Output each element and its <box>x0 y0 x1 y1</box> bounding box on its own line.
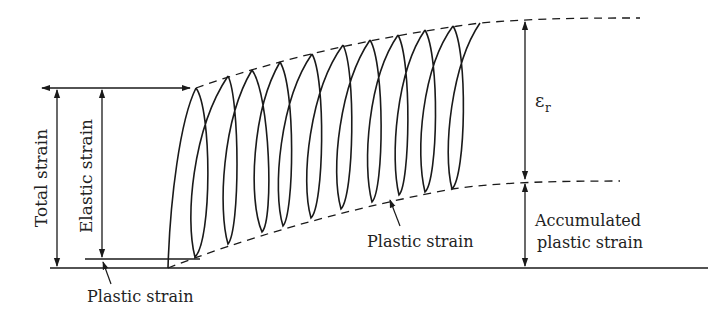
accumulated-label-line1: Accumulated <box>534 211 641 230</box>
plastic-strain-pointer-left <box>103 262 111 284</box>
loop-2 <box>223 70 252 244</box>
loop-8 <box>395 30 425 195</box>
loop-6 <box>337 40 370 209</box>
loop-3 <box>252 62 280 232</box>
loop-1 <box>191 76 228 257</box>
svg-text:r: r <box>545 101 551 115</box>
total-strain-label: Total strain <box>31 129 51 227</box>
plastic-strain-pointer-mid <box>390 200 400 226</box>
plastic-strain-label-mid: Plastic strain <box>367 232 473 251</box>
loop-7 <box>368 35 398 202</box>
epsilon-r-label: ε r <box>535 90 551 115</box>
accumulated-label-line2: plastic strain <box>537 233 643 252</box>
svg-text:ε: ε <box>535 90 544 111</box>
elastic-strain-label: Elastic strain <box>76 119 96 233</box>
plastic-strain-label-left: Plastic strain <box>87 287 193 306</box>
upper-envelope-dashed <box>196 18 640 88</box>
loop-10 <box>448 23 480 189</box>
strain-accumulation-diagram: Total strain Elastic strain Plastic stra… <box>0 0 722 324</box>
